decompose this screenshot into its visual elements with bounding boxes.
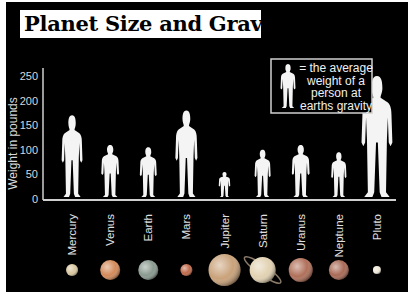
planet-shading xyxy=(250,257,276,283)
x-category-label: Neptune xyxy=(333,214,345,257)
x-category-label: Mars xyxy=(180,214,192,240)
person-silhouette xyxy=(62,115,83,197)
planet-neptune xyxy=(329,260,349,280)
person-figure-mercury xyxy=(62,115,83,197)
person-figure-jupiter xyxy=(219,172,231,197)
planet-shading xyxy=(66,264,78,276)
person-silhouette xyxy=(255,150,271,197)
y-tick-label: 250 xyxy=(20,70,38,82)
person-figure-neptune xyxy=(331,152,346,197)
person-silhouette xyxy=(140,147,157,197)
y-tick-label: 100 xyxy=(20,144,38,156)
planet-shading xyxy=(209,254,241,286)
person-figure-mars xyxy=(175,110,197,197)
planet-shading xyxy=(180,264,192,276)
person-figure-uranus xyxy=(292,145,310,197)
x-category-label: Pluto xyxy=(371,214,383,240)
y-tick-label: 150 xyxy=(20,119,38,131)
planet-shading xyxy=(329,260,349,280)
planet-mars xyxy=(180,264,192,276)
planet-venus xyxy=(100,260,120,280)
y-tick-label: 200 xyxy=(20,95,38,107)
planet-saturn xyxy=(242,253,284,286)
y-tick-label: 0 xyxy=(32,193,38,205)
person-silhouette xyxy=(292,145,310,197)
planet-shading xyxy=(100,260,120,280)
y-tick-label: 50 xyxy=(26,168,38,180)
planet-shading xyxy=(138,260,158,280)
x-category-label: Jupiter xyxy=(219,214,231,249)
x-category-label: Saturn xyxy=(257,214,269,248)
planet-uranus xyxy=(289,258,313,282)
x-category-label: Uranus xyxy=(295,214,307,251)
x-category-label: Earth xyxy=(142,214,154,242)
chart: 050100150200250Weight in pounds MercuryV… xyxy=(0,0,418,305)
person-figure-earth xyxy=(140,147,157,197)
person-silhouette xyxy=(219,172,231,197)
person-silhouette xyxy=(331,152,346,197)
planet-earth xyxy=(138,260,158,280)
person-figure-saturn xyxy=(255,150,271,197)
person-silhouette xyxy=(101,145,119,197)
planet-mercury xyxy=(66,264,78,276)
planet-pluto xyxy=(373,266,381,274)
x-category-label: Mercury xyxy=(66,214,78,256)
y-axis-label: Weight in pounds xyxy=(6,97,20,190)
person-figure-venus xyxy=(101,145,119,197)
x-category-label: Venus xyxy=(104,214,116,246)
planet-shading xyxy=(289,258,313,282)
person-silhouette xyxy=(175,110,197,197)
planet-shading xyxy=(373,266,381,274)
legend-text-line: earths gravity xyxy=(300,99,372,113)
planet-jupiter xyxy=(209,254,241,286)
